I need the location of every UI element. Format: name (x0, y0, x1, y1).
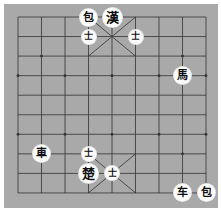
piece-士[interactable]: 士 (82, 147, 96, 161)
piece-包[interactable]: 包 (198, 184, 215, 201)
piece-漢[interactable]: 漢 (103, 8, 122, 27)
marker-dot (181, 152, 184, 155)
piece-士[interactable]: 士 (129, 30, 143, 44)
piece-包[interactable]: 包 (80, 9, 97, 26)
piece-楚[interactable]: 楚 (79, 164, 98, 183)
marker-dot (205, 133, 208, 136)
piece-士[interactable]: 士 (82, 30, 96, 44)
marker-dot (158, 74, 161, 77)
piece-馬[interactable]: 馬 (174, 67, 191, 84)
marker-dot (64, 133, 67, 136)
marker-dot (40, 55, 43, 58)
marker-dot (17, 74, 20, 77)
marker-dot (17, 133, 20, 136)
marker-dot (205, 74, 208, 77)
marker-dot (158, 133, 161, 136)
marker-dot (64, 74, 67, 77)
marker-dot (111, 74, 114, 77)
marker-dot (181, 55, 184, 58)
board-grid (0, 0, 221, 213)
marker-dot (111, 133, 114, 136)
